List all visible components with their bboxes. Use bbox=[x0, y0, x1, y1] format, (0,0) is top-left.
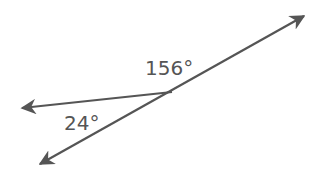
line-through-vertex bbox=[40, 16, 304, 164]
ray-left bbox=[22, 92, 172, 108]
angle-label-156: 156° bbox=[145, 58, 193, 78]
angle-diagram bbox=[0, 0, 312, 170]
angle-label-24: 24° bbox=[64, 113, 99, 133]
